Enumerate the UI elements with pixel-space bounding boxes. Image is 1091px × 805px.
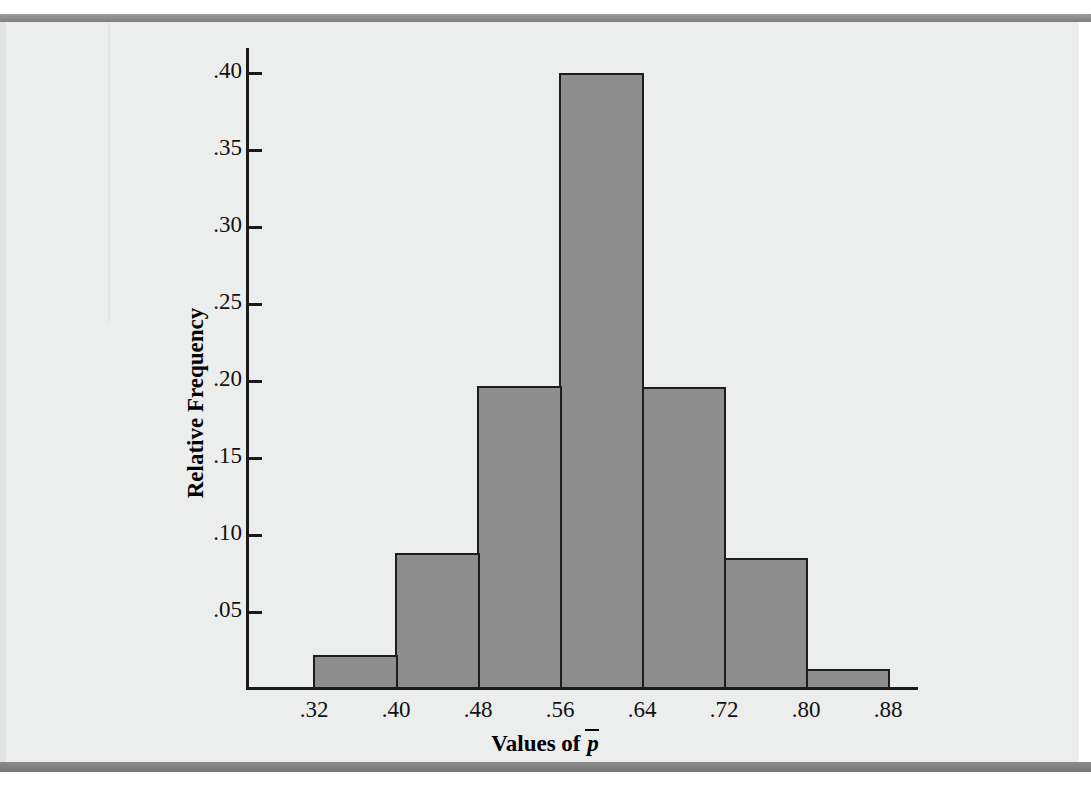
- x-axis-tick-label: .64: [602, 697, 682, 723]
- y-axis-tick-label: .05: [194, 597, 242, 623]
- histogram-bar: [723, 558, 808, 689]
- x-axis-title: Values of p: [0, 731, 1091, 757]
- x-axis-tick-label: .48: [438, 697, 518, 723]
- y-axis-tick-mark: [249, 72, 262, 75]
- x-axis-tick-label: .80: [766, 697, 846, 723]
- x-axis-title-prefix: Values of: [491, 731, 586, 756]
- y-axis-tick-mark: [249, 534, 262, 537]
- y-axis-tick-mark: [249, 226, 262, 229]
- histogram-bar: [477, 386, 562, 689]
- y-axis-tick-label: .30: [194, 212, 242, 238]
- y-axis-tick-mark: [249, 457, 262, 460]
- histogram-bar: [559, 73, 644, 689]
- x-axis-tick-label: .32: [274, 697, 354, 723]
- y-axis-tick-mark: [249, 380, 262, 383]
- histogram-bar: [641, 387, 726, 689]
- x-axis-tick-label: .88: [848, 697, 928, 723]
- histogram-bar: [313, 655, 398, 689]
- y-axis-title: Relative Frequency: [183, 308, 209, 499]
- y-axis-line: [246, 48, 249, 690]
- y-axis-tick-label: .35: [194, 135, 242, 161]
- x-axis-tick-label: .72: [684, 697, 764, 723]
- histogram-bar: [395, 553, 480, 689]
- y-axis-tick-mark: [249, 303, 262, 306]
- histogram-plot-area: .40.35.30.25.20.15.10.05 .32.40.48.56.64…: [0, 0, 1091, 805]
- y-axis-tick-mark: [249, 611, 262, 614]
- figure-plate: .40.35.30.25.20.15.10.05 .32.40.48.56.64…: [0, 0, 1091, 805]
- x-axis-title-symbol-pbar: p: [586, 731, 600, 756]
- histogram-bar: [805, 669, 890, 689]
- y-axis-tick-label: .10: [194, 520, 242, 546]
- x-axis-tick-label: .40: [356, 697, 436, 723]
- y-axis-tick-mark: [249, 149, 262, 152]
- x-axis-tick-label: .56: [520, 697, 600, 723]
- y-axis-tick-label: .40: [194, 58, 242, 84]
